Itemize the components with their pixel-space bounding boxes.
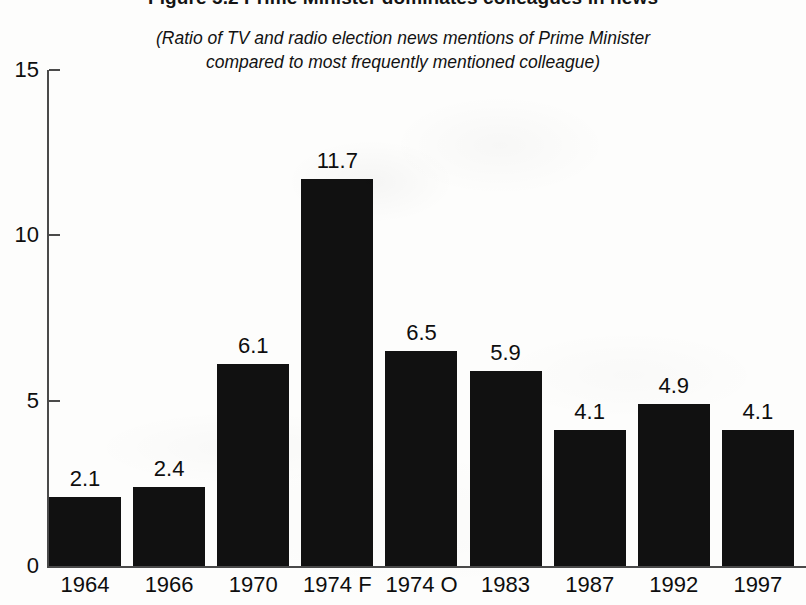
y-axis-tick-label: 5 — [27, 390, 39, 412]
bar — [470, 371, 542, 566]
bar-group: 2.1 — [49, 70, 121, 566]
chart-subtitle-line-2: compared to most frequently mentioned co… — [0, 50, 806, 74]
bar-value-label: 2.1 — [70, 468, 101, 490]
y-axis-tick-label: 0 — [27, 555, 39, 577]
bar-value-label: 4.1 — [574, 401, 605, 423]
x-axis-category-label: 1966 — [133, 572, 205, 598]
bar — [554, 430, 626, 566]
x-axis-category-label: 1987 — [554, 572, 626, 598]
x-axis-tick-labels: 1964196619701974 F1974 O1983198719921997 — [49, 572, 806, 605]
bar-value-label: 6.1 — [238, 335, 269, 357]
bar-group: 11.7 — [301, 70, 373, 566]
y-axis-tick-label: 10 — [15, 224, 39, 246]
plot-area: 2.12.46.111.76.55.94.14.94.1 — [47, 70, 806, 566]
x-axis-category-label: 1974 F — [301, 572, 373, 598]
bar-group: 4.1 — [554, 70, 626, 566]
page-title: Figure 5.2 Prime Minister dominates coll… — [0, 0, 806, 9]
bar — [301, 179, 373, 566]
bar — [217, 364, 289, 566]
bar-value-label: 11.7 — [317, 150, 358, 172]
chart-subtitle: (Ratio of TV and radio election news men… — [0, 26, 806, 74]
bar — [722, 430, 794, 566]
bar-series: 2.12.46.111.76.55.94.14.94.1 — [49, 70, 806, 566]
x-axis-category-label: 1970 — [217, 572, 289, 598]
bar-group: 4.9 — [638, 70, 710, 566]
bar-value-label: 4.9 — [658, 375, 689, 397]
bar-group: 5.9 — [470, 70, 542, 566]
bar — [133, 487, 205, 566]
bar — [49, 497, 121, 566]
x-axis-category-label: 1992 — [638, 572, 710, 598]
chart-subtitle-line-1: (Ratio of TV and radio election news men… — [0, 26, 806, 50]
bar-value-label: 2.4 — [154, 458, 185, 480]
x-axis-category-label: 1974 O — [385, 572, 457, 598]
bar — [638, 404, 710, 566]
bar-group: 6.1 — [217, 70, 289, 566]
figure-page: Figure 5.2 Prime Minister dominates coll… — [0, 0, 806, 605]
bar-group: 4.1 — [722, 70, 794, 566]
bar-value-label: 4.1 — [743, 401, 774, 423]
x-axis-category-label: 1997 — [722, 572, 794, 598]
bar-value-label: 6.5 — [406, 322, 437, 344]
x-axis-line — [47, 566, 806, 568]
x-axis-category-label: 1964 — [49, 572, 121, 598]
bar-value-label: 5.9 — [490, 342, 521, 364]
x-axis-category-label: 1983 — [470, 572, 542, 598]
bar-group: 2.4 — [133, 70, 205, 566]
bar-group: 6.5 — [385, 70, 457, 566]
bar — [385, 351, 457, 566]
